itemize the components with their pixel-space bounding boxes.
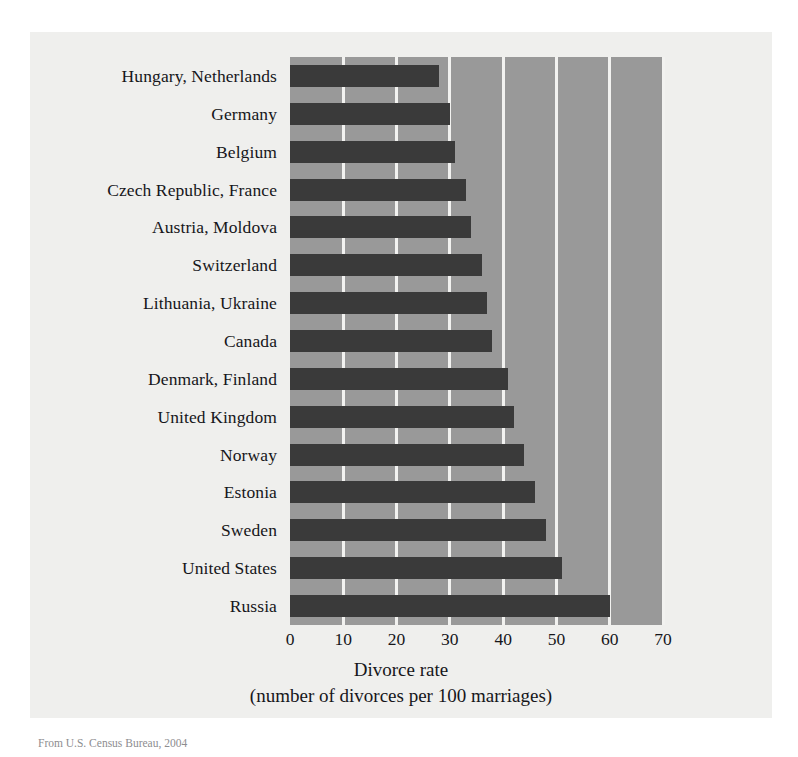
figure-panel: Hungary, NetherlandsGermanyBelgiumCzech … <box>30 32 772 718</box>
category-label: Norway <box>30 444 277 466</box>
category-label: Hungary, Netherlands <box>30 65 277 87</box>
x-tick-label: 50 <box>548 628 566 650</box>
x-tick-label: 20 <box>388 628 406 650</box>
x-axis-tick-labels: 010203040506070 <box>290 628 663 654</box>
bar <box>290 444 524 466</box>
bar <box>290 595 610 617</box>
gridline-70 <box>662 57 665 625</box>
bar <box>290 141 455 163</box>
bar <box>290 254 482 276</box>
bar <box>290 519 546 541</box>
category-label: Sweden <box>30 519 277 541</box>
category-label: Canada <box>30 330 277 352</box>
x-tick-label: 40 <box>494 628 512 650</box>
bar <box>290 368 508 390</box>
category-label: United Kingdom <box>30 406 277 428</box>
x-axis-title-line2: (number of divorces per 100 marriages) <box>30 683 772 709</box>
x-tick-label: 70 <box>654 628 672 650</box>
category-label: Belgium <box>30 141 277 163</box>
category-label: Germany <box>30 103 277 125</box>
bar <box>290 103 450 125</box>
x-tick-label: 30 <box>441 628 459 650</box>
bar <box>290 406 514 428</box>
bar <box>290 481 535 503</box>
category-label: Czech Republic, France <box>30 179 277 201</box>
bar <box>290 557 562 579</box>
x-axis-title-line1: Divorce rate <box>30 657 772 683</box>
x-tick-label: 10 <box>335 628 353 650</box>
category-label: Russia <box>30 595 277 617</box>
category-label: Denmark, Finland <box>30 368 277 390</box>
gridline-50 <box>555 57 558 625</box>
plot-region <box>290 57 663 625</box>
category-axis-labels: Hungary, NetherlandsGermanyBelgiumCzech … <box>30 57 277 625</box>
category-label: Lithuania, Ukraine <box>30 292 277 314</box>
x-tick-label: 0 <box>286 628 295 650</box>
category-label: Austria, Moldova <box>30 216 277 238</box>
bar <box>290 216 471 238</box>
bar <box>290 179 466 201</box>
divorce-rate-bar-chart: Hungary, NetherlandsGermanyBelgiumCzech … <box>30 32 772 718</box>
category-label: Estonia <box>30 481 277 503</box>
gridline-60 <box>608 57 611 625</box>
source-caption: From U.S. Census Bureau, 2004 <box>38 736 187 750</box>
x-axis-title: Divorce rate (number of divorces per 100… <box>30 657 772 709</box>
bar <box>290 292 487 314</box>
x-tick-label: 60 <box>601 628 619 650</box>
category-label: United States <box>30 557 277 579</box>
bar <box>290 65 439 87</box>
bar <box>290 330 492 352</box>
category-label: Switzerland <box>30 254 277 276</box>
